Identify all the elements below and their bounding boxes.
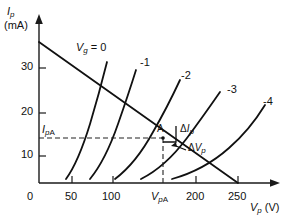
curve-label-minus-3: -3 [227, 84, 237, 95]
x-tick-label-50: 50 [65, 191, 77, 202]
delta-vp-arrowhead [171, 142, 177, 147]
delta-vp-label: ΔVp [188, 143, 206, 153]
y-tick-label-30: 30 [21, 61, 33, 72]
delta-ip-label: ΔIp [180, 124, 194, 134]
y-tick-label-0: 0 [27, 191, 33, 202]
operating-point-marker [161, 136, 165, 140]
curve-vg-minus-1 [90, 70, 136, 179]
x-tick-label-100: 100 [102, 191, 120, 202]
curve-vg-minus-2 [115, 80, 180, 179]
x-axis-ticks [72, 176, 238, 183]
curve-label-minus-4: -4 [263, 96, 273, 107]
x-tick-label-250: 250 [228, 191, 246, 202]
y-tick-label-20: 20 [21, 106, 33, 117]
y-axis-ticks [39, 68, 46, 156]
x-tick-label-200: 200 [186, 191, 204, 202]
y-axis-title-line2: (mA) [4, 20, 28, 31]
curve-label-minus-2: -2 [181, 70, 191, 81]
curve-vg-minus-3 [141, 92, 220, 179]
operating-point-label: A [157, 124, 164, 134]
x-axis-arrowhead [270, 179, 280, 187]
curve-vg-minus-4 [172, 105, 265, 179]
y-tick-label-10: 10 [21, 149, 33, 160]
curve-label-minus-1: -1 [140, 57, 150, 68]
y-axis-arrowhead [35, 14, 43, 24]
x-tick-label-vpa: VpA [151, 191, 168, 202]
chart-canvas [0, 0, 290, 224]
load-line [39, 42, 238, 183]
x-axis [39, 179, 280, 187]
y-tick-label-ipa: IpA [42, 124, 55, 135]
curve-label-vg-0: Vg = 0 [76, 42, 106, 53]
y-axis-title-line1: Ip [7, 6, 15, 17]
vacuum-tube-characteristic-chart: Ip (mA) Vp (V) 30 20 10 0 50 100 200 250… [0, 0, 290, 224]
x-axis-title: Vp (V) [250, 202, 280, 213]
y-axis [35, 14, 43, 183]
